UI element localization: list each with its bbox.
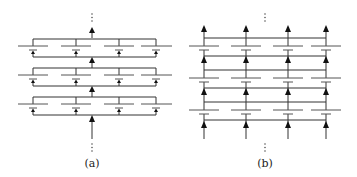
arrowhead-icon	[89, 115, 95, 122]
cell-group-1	[18, 39, 172, 57]
cell-group-3	[18, 97, 172, 115]
panel-a-diagram: (a)	[18, 13, 172, 170]
continuation-dots-bottom-a	[91, 143, 93, 152]
cross-ties-b	[204, 38, 326, 120]
continuation-dots-bottom-b	[264, 143, 266, 152]
panel-label-a: (a)	[84, 157, 99, 170]
panel-b-diagram: (b)	[189, 13, 341, 170]
figure-canvas: (a)	[0, 0, 357, 177]
continuation-dots-top-a	[91, 13, 93, 22]
cell-group-2	[18, 68, 172, 86]
continuation-dots-top-b	[264, 13, 266, 22]
arrowheads-b	[201, 25, 329, 128]
arrowhead-icon	[89, 57, 95, 63]
panel-label-b: (b)	[257, 157, 273, 170]
arrowhead-icon	[89, 27, 95, 33]
arrowhead-icon	[89, 86, 95, 92]
